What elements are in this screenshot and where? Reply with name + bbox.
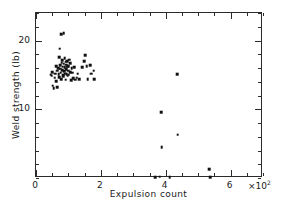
data-point [76,72,79,75]
data-point [67,65,70,68]
y-tick-right-2 [258,164,261,165]
data-point [56,86,59,89]
data-point [176,73,179,76]
data-point [154,176,157,179]
data-point [93,78,96,81]
data-point [55,80,58,83]
x-tick-250 [117,173,118,176]
y-tick-label-20: 20 [8,35,30,45]
data-point [160,111,163,114]
data-point [81,66,84,69]
x-tick-top-150 [85,13,86,16]
x-tick-label-0: 0 [32,180,38,190]
data-point [84,54,87,57]
data-point [51,71,54,74]
y-tick-18 [36,54,39,55]
data-point [54,72,57,75]
y-tick-label-10: 10 [8,103,30,113]
data-point [168,176,171,179]
data-point [85,65,88,68]
x-tick-450 [182,173,183,176]
y-tick-24 [36,13,39,14]
y-tick-right-24 [258,13,261,14]
data-point [67,74,70,77]
data-point [54,76,57,79]
x-tick-top-250 [117,13,118,16]
data-point [68,58,71,61]
y-tick-right-10 [255,109,261,110]
data-point [58,56,61,59]
data-point [58,47,61,50]
y-tick-right-4 [258,151,261,152]
x-tick-100 [68,173,69,176]
y-tick-right-14 [258,82,261,83]
data-point [87,78,90,81]
data-point [53,87,56,90]
x-axis-multiplier-base: ×10 [248,181,267,191]
plot-area [35,12,262,177]
data-point [158,175,161,178]
x-tick-label-6: 6 [227,180,233,190]
y-tick-10 [36,109,42,110]
x-tick-top-350 [150,13,151,16]
y-tick-0 [36,178,39,179]
y-tick-14 [36,82,39,83]
data-point [90,72,93,75]
x-tick-50 [52,173,53,176]
y-tick-right-20 [255,41,261,42]
y-tick-right-18 [258,54,261,55]
data-point [71,72,74,75]
y-tick-4 [36,151,39,152]
x-tick-650 [247,173,248,176]
y-tick-16 [36,68,39,69]
data-point [60,78,63,81]
x-tick-700 [263,173,264,176]
y-tick-22 [36,27,39,28]
data-point [89,64,92,67]
x-tick-top-100 [68,13,69,16]
x-tick-0 [36,170,37,176]
x-tick-top-400 [166,13,167,19]
data-point [62,75,65,78]
data-point [50,74,53,77]
y-tick-2 [36,164,39,165]
x-tick-350 [150,173,151,176]
y-tick-right-6 [258,137,261,138]
x-axis-multiplier: ×102 [248,179,271,191]
x-tick-600 [231,170,232,176]
scatter-plot-figure: Expulsion count Weld strength (lb) ×102 … [0,0,285,203]
x-tick-top-700 [263,13,264,16]
x-tick-top-200 [101,13,102,19]
y-axis-title: Weld strength (lb) [11,30,21,160]
x-tick-500 [198,173,199,176]
y-tick-6 [36,137,39,138]
x-tick-550 [214,173,215,176]
y-tick-right-22 [258,27,261,28]
data-point [62,32,65,35]
x-tick-200 [101,170,102,176]
y-tick-right-12 [258,96,261,97]
data-point [83,60,86,63]
data-point [176,133,179,136]
data-point [78,78,81,81]
x-axis-multiplier-exponent: 2 [267,179,271,186]
x-tick-top-450 [182,13,183,16]
data-point [73,66,76,69]
y-tick-12 [36,96,39,97]
x-tick-label-4: 4 [162,180,168,190]
x-tick-top-550 [214,13,215,16]
y-tick-20 [36,41,42,42]
y-tick-8 [36,123,39,124]
x-tick-top-600 [231,13,232,19]
x-tick-label-2: 2 [97,180,103,190]
x-tick-150 [85,173,86,176]
x-tick-top-500 [198,13,199,16]
y-tick-right-8 [258,123,261,124]
data-point [64,78,67,81]
x-tick-top-300 [133,13,134,16]
x-tick-300 [133,173,134,176]
x-tick-top-650 [247,13,248,16]
data-point [161,146,164,149]
y-tick-right-16 [258,68,261,69]
data-point [69,62,72,65]
